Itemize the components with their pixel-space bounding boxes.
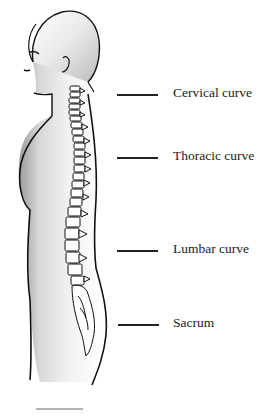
leader-line-sacrum	[118, 324, 159, 326]
leader-line-lumbar	[117, 250, 158, 252]
leader-line-thoracic	[117, 157, 158, 159]
label-lumbar-curve: Lumbar curve	[173, 241, 249, 257]
leader-line-cervical	[117, 94, 158, 96]
label-cervical-curve: Cervical curve	[173, 85, 252, 101]
label-thoracic-curve: Thoracic curve	[173, 148, 254, 164]
label-sacrum: Sacrum	[173, 315, 214, 331]
spine-illustration	[0, 0, 273, 416]
